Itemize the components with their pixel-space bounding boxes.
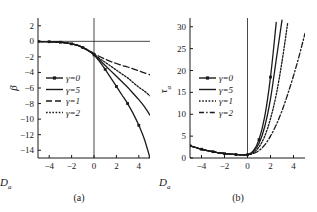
data-point-marker bbox=[269, 76, 272, 79]
y-tick-label: −8 bbox=[24, 99, 34, 109]
y-tick-label: 20 bbox=[177, 66, 187, 76]
legend-label: γ=0 bbox=[219, 73, 234, 83]
legend-label: γ=1 bbox=[219, 96, 233, 106]
chart-panel-a: 20−2−4−6−8−10−12−14−4−2024γ=0γ=5γ=1γ=2 β… bbox=[0, 0, 158, 212]
x-tick-label: −4 bbox=[197, 161, 207, 171]
y-tick-label: −2 bbox=[24, 52, 34, 62]
y-tick-label: 5 bbox=[182, 131, 187, 141]
axis-label-subscript: a bbox=[8, 183, 12, 191]
data-series-line bbox=[190, 22, 276, 155]
y-tick-label: 25 bbox=[177, 44, 187, 54]
y-tick-label: 0 bbox=[182, 153, 187, 163]
axis-label-base: D bbox=[0, 176, 8, 188]
legend-sample-marker bbox=[53, 76, 56, 79]
plot-area-b: 051015202530−4−2024γ=0γ=5γ=1γ=2 bbox=[159, 0, 317, 175]
y-tick-label: 2 bbox=[30, 21, 35, 31]
axis-label-base: D bbox=[159, 176, 167, 188]
axis-label-subscript: a bbox=[165, 86, 173, 90]
x-tick-label: 4 bbox=[137, 161, 142, 171]
axis-label-base: τ bbox=[157, 89, 169, 93]
x-tick-label: −4 bbox=[44, 161, 54, 171]
figure-container: 20−2−4−6−8−10−12−14−4−2024γ=0γ=5γ=1γ=2 β… bbox=[0, 0, 317, 212]
x-tick-label: 4 bbox=[291, 161, 296, 171]
legend-label: γ=2 bbox=[66, 108, 81, 118]
legend-label: γ=1 bbox=[66, 96, 80, 106]
axis-label-base: β bbox=[7, 85, 19, 90]
x-tick-label: 2 bbox=[268, 161, 273, 171]
data-series-line bbox=[190, 20, 282, 155]
legend-label: γ=2 bbox=[219, 108, 234, 118]
legend-label: γ=0 bbox=[66, 73, 81, 83]
data-point-marker bbox=[126, 102, 129, 105]
data-point-marker bbox=[137, 124, 140, 127]
y-axis-label-a: β bbox=[7, 73, 19, 103]
data-point-marker bbox=[104, 68, 107, 71]
data-point-marker bbox=[115, 85, 118, 88]
chart-panel-b: 051015202530−4−2024γ=0γ=5γ=1γ=2 τa Da (b… bbox=[159, 0, 317, 212]
legend-label: γ=5 bbox=[66, 85, 81, 95]
y-axis-label-b: τa bbox=[157, 75, 172, 105]
x-tick-label: −2 bbox=[220, 161, 230, 171]
y-tick-label: −12 bbox=[20, 130, 34, 140]
legend-label: γ=5 bbox=[219, 85, 234, 95]
x-tick-label: 0 bbox=[245, 161, 250, 171]
x-tick-label: −2 bbox=[67, 161, 77, 171]
plot-area-a: 20−2−4−6−8−10−12−14−4−2024γ=0γ=5γ=1γ=2 bbox=[0, 0, 158, 175]
y-tick-label: 30 bbox=[177, 22, 187, 32]
x-tick-label: 2 bbox=[114, 161, 119, 171]
y-tick-label: −14 bbox=[20, 145, 35, 155]
series-group bbox=[189, 20, 305, 156]
data-point-marker bbox=[149, 157, 152, 160]
data-series-line bbox=[190, 22, 288, 155]
x-axis-label-b: Da bbox=[159, 176, 170, 191]
y-tick-label: −10 bbox=[20, 114, 35, 124]
x-tick-label: 0 bbox=[92, 161, 97, 171]
y-tick-label: −4 bbox=[24, 67, 34, 77]
y-tick-label: −6 bbox=[24, 83, 34, 93]
y-tick-label: 10 bbox=[177, 109, 187, 119]
legend-sample-marker bbox=[206, 76, 209, 79]
y-tick-label: 15 bbox=[177, 87, 187, 97]
axis-label-subscript: a bbox=[167, 183, 171, 191]
y-tick-label: 0 bbox=[30, 36, 35, 46]
panel-caption-b: (b) bbox=[159, 192, 317, 203]
x-axis-label-a: Da bbox=[0, 176, 11, 191]
panel-caption-a: (a) bbox=[0, 192, 158, 203]
